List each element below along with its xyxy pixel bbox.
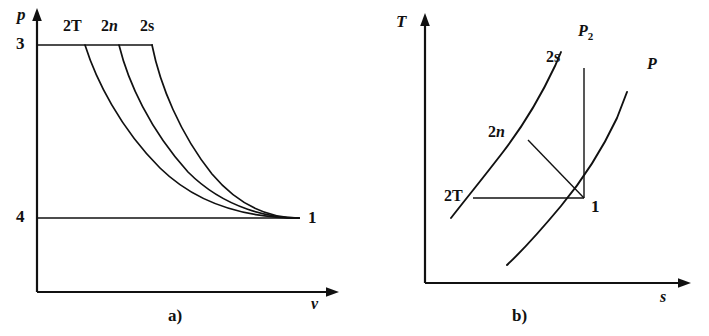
pv-label-2n-exponent: n: [109, 17, 118, 34]
ts-label-point-1: 1: [591, 198, 600, 215]
ts-label-2n-prefix: 2: [488, 123, 496, 140]
pv-diagram-svg: [0, 0, 355, 336]
ts-diagram-svg: [355, 0, 709, 336]
curve-isobar-P: [507, 92, 627, 265]
pv-label-2T: 2T: [63, 18, 82, 34]
ts-label-isobar-P2-letter: P: [578, 22, 588, 39]
ts-label-isobar-P2: P2: [578, 23, 593, 42]
ts-label-2s: 2s: [546, 49, 560, 65]
pv-label-2n: 2n: [101, 18, 118, 34]
p-axis: [32, 8, 42, 292]
pv-label-2s: 2s: [140, 18, 154, 34]
s-axis: [425, 278, 691, 288]
curve-isobar-P2: [451, 52, 561, 218]
ts-label-isobar-P: P: [647, 56, 657, 72]
ts-x-axis-label: s: [660, 289, 666, 305]
curve-polytropic-2n: [119, 45, 299, 218]
pv-label-point-1: 1: [308, 209, 317, 226]
caption-a: a): [168, 306, 182, 326]
curve-isentropic-2s: [152, 45, 299, 218]
ts-label-2n: 2n: [488, 124, 505, 140]
v-axis: [37, 287, 339, 297]
ts-label-isobar-P2-subscript: 2: [588, 30, 594, 42]
T-axis: [420, 13, 430, 283]
ts-label-2T: 2T: [444, 188, 463, 204]
pv-diagram-figure: p v 3 4 2T 2n 2s 1 a): [0, 0, 355, 336]
ts-label-2n-exponent: n: [496, 123, 505, 140]
curve-isothermal-2T: [85, 45, 299, 218]
pv-tick-3: 3: [16, 35, 25, 52]
pv-label-2n-prefix: 2: [101, 17, 109, 34]
line-1-to-2n: [528, 140, 584, 198]
caption-b: b): [512, 306, 527, 326]
pv-tick-4: 4: [16, 208, 25, 225]
ts-y-axis-label: T: [396, 13, 406, 30]
pv-y-axis-label: p: [17, 6, 26, 23]
pv-x-axis-label: v: [311, 296, 318, 312]
ts-diagram-figure: T s P2 P 2s 2n 2T 1 b): [355, 0, 709, 336]
figure-page: p v 3 4 2T 2n 2s 1 a): [0, 0, 709, 336]
